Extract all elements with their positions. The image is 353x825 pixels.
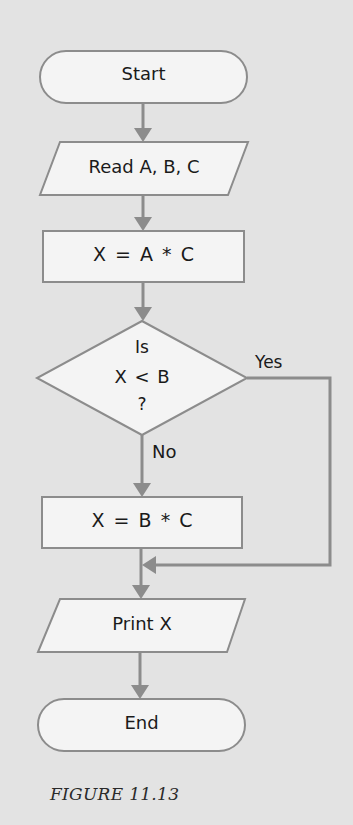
calc1-label: X = A * C bbox=[43, 243, 244, 265]
arrow-down-icon bbox=[134, 217, 152, 231]
arrow-down-icon bbox=[134, 128, 152, 142]
calc2-label: X = B * C bbox=[42, 509, 242, 531]
decision-line-1: Is bbox=[92, 337, 192, 357]
arrow-down-icon bbox=[134, 307, 152, 321]
yes-branch-label: Yes bbox=[255, 352, 282, 372]
start-label: Start bbox=[40, 63, 247, 84]
read-label: Read A, B, C bbox=[44, 156, 244, 177]
end-label: End bbox=[38, 712, 245, 733]
no-branch-label: No bbox=[152, 441, 176, 462]
arrow-down-icon bbox=[133, 483, 151, 497]
arrow-down-icon bbox=[132, 585, 150, 599]
arrow-down-icon bbox=[131, 685, 149, 699]
decision-line-3: ? bbox=[92, 394, 192, 414]
arrow-left-icon bbox=[142, 556, 156, 574]
figure-caption: FIGURE 11.13 bbox=[50, 784, 179, 804]
decision-line-2: X < B bbox=[92, 366, 192, 387]
print-label: Print X bbox=[42, 613, 242, 634]
